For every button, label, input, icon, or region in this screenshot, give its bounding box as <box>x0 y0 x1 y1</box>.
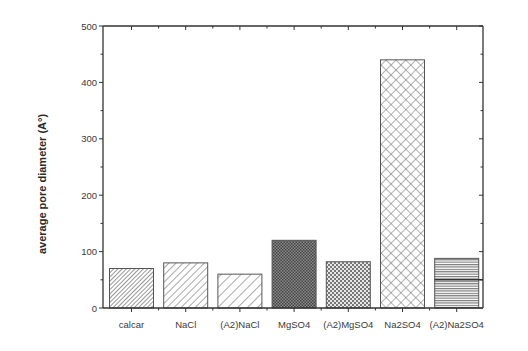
bar-nacl <box>164 263 208 308</box>
bar-mgso4 <box>272 240 316 308</box>
x-axis-labels: calcarNaCl(A2)NaClMgSO4(A2)MgSO4Na2SO4(A… <box>119 319 484 330</box>
x-category-label: calcar <box>119 319 144 330</box>
bar-a2-na2so4 <box>435 258 479 308</box>
y-tick-label: 400 <box>81 77 97 88</box>
bar-a2-mgso4 <box>326 262 370 308</box>
y-tick-label: 0 <box>92 303 97 314</box>
y-tick-label: 100 <box>81 246 97 257</box>
bar-a2-nacl <box>218 274 262 308</box>
x-category-label: Na2SO4 <box>384 319 420 330</box>
y-tick-label: 500 <box>81 21 97 32</box>
y-tick-label: 300 <box>81 133 97 144</box>
x-category-label: MgSO4 <box>278 319 310 330</box>
y-tick-label: 200 <box>81 190 97 201</box>
x-category-label: (A2)Na2SO4 <box>430 319 484 330</box>
bar-chart: average pore diameter (A°) 0100200300400… <box>0 0 528 351</box>
x-category-label: (A2)MgSO4 <box>323 319 373 330</box>
bars-group <box>110 60 484 308</box>
y-axis-title: average pore diameter (A°) <box>36 114 48 254</box>
bar-na2so4 <box>381 60 425 308</box>
x-category-label: (A2)NaCl <box>220 319 259 330</box>
bar-calcar <box>110 269 154 308</box>
x-category-label: NaCl <box>175 319 196 330</box>
